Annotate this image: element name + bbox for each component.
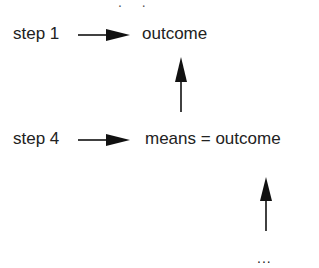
arrows-layer — [0, 0, 319, 268]
up-arrow-icon — [175, 57, 187, 112]
right-arrow-icon — [78, 29, 130, 41]
up-arrow-icon — [260, 177, 272, 231]
right-arrow-icon — [78, 134, 130, 146]
